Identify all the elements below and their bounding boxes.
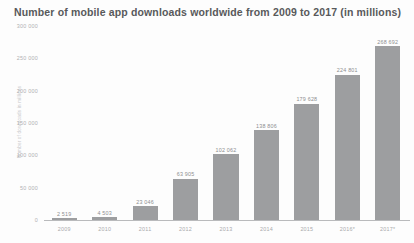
x-axis-line xyxy=(44,220,410,221)
x-tick-label: 2016* xyxy=(340,226,355,232)
bar-value-label: 63 905 xyxy=(177,171,195,177)
x-tick-label: 2017* xyxy=(380,226,395,232)
bar-value-label: 2 519 xyxy=(57,211,72,217)
y-tick-label: 0 xyxy=(0,217,38,223)
y-axis: Number of downloads in millions 050 0001… xyxy=(0,0,44,243)
x-tick-label: 2012 xyxy=(179,226,192,232)
bar[interactable] xyxy=(133,206,158,220)
bar[interactable] xyxy=(335,75,360,220)
bar[interactable] xyxy=(213,154,238,220)
bar[interactable] xyxy=(173,179,198,220)
x-tick-label: 2014 xyxy=(260,226,273,232)
bar-value-label: 268 692 xyxy=(377,39,398,45)
bar-value-label: 102 062 xyxy=(216,147,237,153)
chart-title: Number of mobile app downloads worldwide… xyxy=(14,6,410,18)
bar-value-label: 4 503 xyxy=(97,210,112,216)
y-tick-label: 50 000 xyxy=(0,185,38,191)
bar-group[interactable]: 102 062 xyxy=(213,147,238,221)
bar-group[interactable]: 224 801 xyxy=(335,67,360,220)
bar-value-label: 224 801 xyxy=(337,67,358,73)
y-tick-label: 150 000 xyxy=(0,120,38,126)
y-tick-label: 100 000 xyxy=(0,152,38,158)
bar-group[interactable]: 63 905 xyxy=(173,171,198,220)
bar-value-label: 138 806 xyxy=(256,123,277,129)
bar-group[interactable]: 268 692 xyxy=(375,39,400,220)
y-tick-label: 200 000 xyxy=(0,88,38,94)
bar-value-label: 179 628 xyxy=(296,96,317,102)
x-tick-label: 2015 xyxy=(300,226,313,232)
y-tick-label: 300 000 xyxy=(0,23,38,29)
x-tick-label: 2011 xyxy=(139,226,152,232)
bar-group[interactable]: 23 046 xyxy=(133,199,158,220)
bar-group[interactable]: 2 519 xyxy=(52,211,77,220)
bar[interactable] xyxy=(375,46,400,220)
bar-group[interactable]: 179 628 xyxy=(294,96,319,220)
x-tick-label: 2013 xyxy=(220,226,233,232)
bar[interactable] xyxy=(254,130,279,220)
x-tick-label: 2009 xyxy=(58,226,71,232)
y-tick-label: 250 000 xyxy=(0,55,38,61)
bar-group[interactable]: 4 503 xyxy=(92,210,117,220)
bar-group[interactable]: 138 806 xyxy=(254,123,279,220)
plot-area: 2 5194 50323 04663 905102 062138 806179 … xyxy=(44,26,408,220)
bar[interactable] xyxy=(294,104,319,220)
chart-container: Number of mobile app downloads worldwide… xyxy=(0,0,414,243)
bar-value-label: 23 046 xyxy=(136,199,154,205)
x-tick-label: 2010 xyxy=(98,226,111,232)
x-axis: 20092010201120122013201420152016*2017* xyxy=(44,223,408,239)
